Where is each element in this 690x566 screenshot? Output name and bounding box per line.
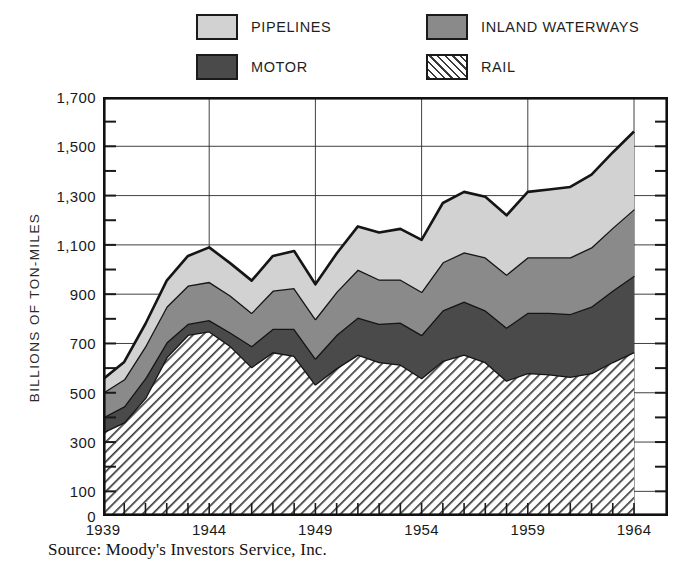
x-axis-tick-label: 1959 (511, 521, 546, 538)
x-axis-tick-label: 1939 (86, 521, 121, 538)
y-axis-tick-labels: 1,7001,5001,3001,1009007005003001000 (20, 0, 96, 566)
stacked-area-svg (103, 97, 668, 516)
legend-swatch-inland-waterways-icon (426, 14, 468, 40)
y-axis-tick-label: 1,500 (24, 138, 96, 155)
x-axis-tick-label: 1944 (192, 521, 227, 538)
y-axis-tick-label: 300 (24, 434, 96, 451)
legend-swatch-motor-icon (196, 54, 238, 80)
legend-label-inland-waterways: INLAND WATERWAYS (481, 19, 639, 35)
source-note: Source: Moody's Investors Service, Inc. (48, 540, 327, 560)
legend-swatch-rail-icon (426, 54, 468, 80)
legend-label-rail: RAIL (481, 59, 516, 75)
legend-item-inland-waterways[interactable]: INLAND WATERWAYS (426, 14, 639, 40)
y-axis-tick-label: 100 (24, 483, 96, 500)
y-axis-tick-label: 1,100 (24, 236, 96, 253)
legend-item-pipelines[interactable]: PIPELINES (196, 14, 331, 40)
legend-label-motor: MOTOR (251, 59, 308, 75)
y-axis-tick-label: 1,700 (24, 89, 96, 106)
y-axis-tick-label: 1,300 (24, 187, 96, 204)
x-axis-tick-label: 1949 (298, 521, 333, 538)
plot-area (103, 97, 668, 516)
legend-item-motor[interactable]: MOTOR (196, 54, 308, 80)
x-axis-tick-label: 1964 (617, 521, 652, 538)
y-axis-tick-label: 500 (24, 384, 96, 401)
x-axis-tick-label: 1954 (404, 521, 439, 538)
ton-miles-stacked-area-chart: PIPELINES INLAND WATERWAYS MOTOR RAIL BI… (0, 0, 690, 566)
legend-item-rail[interactable]: RAIL (426, 54, 516, 80)
y-axis-tick-label: 900 (24, 286, 96, 303)
y-axis-tick-label: 700 (24, 335, 96, 352)
legend-swatch-pipelines-icon (196, 14, 238, 40)
chart-legend: PIPELINES INLAND WATERWAYS MOTOR RAIL (196, 14, 676, 84)
legend-label-pipelines: PIPELINES (251, 19, 331, 35)
